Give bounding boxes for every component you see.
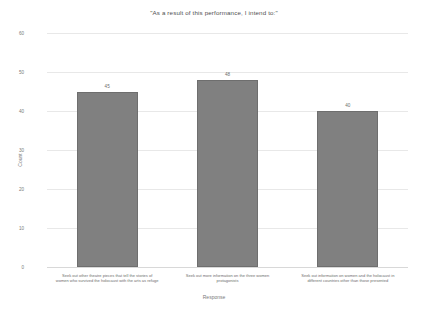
bar-value-label: 40 [345, 103, 350, 108]
chart-title: "As a result of this performance, I inte… [0, 9, 428, 16]
y-axis-tick-label: 40 [2, 109, 24, 114]
x-axis-tick-label: Seek out other theatre pieces that tell … [55, 273, 159, 284]
grid-line [47, 33, 408, 34]
y-axis-tick-label: 0 [2, 265, 24, 270]
y-axis-tick-label: 10 [2, 226, 24, 231]
bar [77, 92, 138, 268]
bar [197, 80, 258, 267]
grid-line [47, 267, 408, 268]
y-axis-tick-label: 30 [2, 148, 24, 153]
plot-area: 0102030405060 454840 Seek out other thea… [47, 33, 408, 267]
bar-value-label: 45 [105, 84, 110, 89]
x-axis-tick-label: Seek out information on women and the ho… [296, 273, 400, 284]
y-axis-tick-label: 50 [2, 70, 24, 75]
y-axis-tick-label: 20 [2, 187, 24, 192]
bar-value-label: 48 [225, 72, 230, 77]
x-axis-tick-label: Seek out more information on the three w… [176, 273, 280, 284]
y-axis-title: Count [17, 153, 23, 166]
x-axis-title: Response [0, 294, 428, 300]
y-axis-tick-label: 60 [2, 31, 24, 36]
bar [317, 111, 378, 267]
chart-container: "As a result of this performance, I inte… [0, 0, 428, 319]
